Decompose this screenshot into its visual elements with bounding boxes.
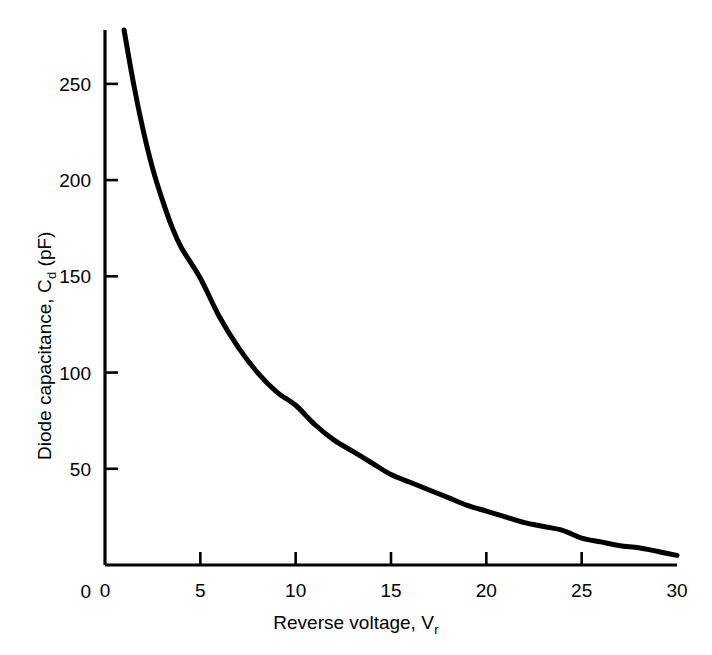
y-tick-label: 0 bbox=[29, 582, 91, 601]
x-axis-title: Reverse voltage, Vr bbox=[0, 612, 712, 637]
x-axis-title-subscript: r bbox=[434, 622, 439, 637]
y-axis-title: Diode capacitance, Cd (pF) bbox=[34, 232, 59, 460]
y-axis-title-text: Diode capacitance, C bbox=[34, 279, 55, 460]
x-tick-label: 30 bbox=[666, 581, 687, 600]
x-tick-label: 20 bbox=[476, 581, 497, 600]
y-tick-label: 200 bbox=[29, 171, 91, 190]
x-tick-label: 0 bbox=[100, 581, 111, 600]
y-axis-title-subscript: d bbox=[44, 272, 59, 280]
x-tick-label: 25 bbox=[571, 581, 592, 600]
x-tick-label: 15 bbox=[380, 581, 401, 600]
x-tick-label: 5 bbox=[195, 581, 206, 600]
chart-figure: 051015202530050100150200250 Reverse volt… bbox=[0, 0, 712, 655]
y-tick-label: 250 bbox=[29, 74, 91, 93]
chart-plot-area bbox=[0, 0, 712, 655]
y-tick-label: 50 bbox=[29, 459, 91, 478]
x-axis-title-text: Reverse voltage, V bbox=[273, 612, 434, 633]
x-tick-label: 10 bbox=[285, 581, 306, 600]
chart-background bbox=[0, 0, 712, 655]
y-axis-title-unit: (pF) bbox=[34, 232, 55, 272]
